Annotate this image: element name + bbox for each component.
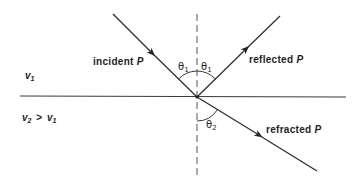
interface-line (20, 96, 346, 97)
incident-label-word: incident (93, 56, 134, 67)
reflected-label: reflectedP (249, 54, 303, 65)
refracted-label-symbol: P (315, 124, 322, 135)
reflected-label-symbol: P (296, 54, 303, 65)
reflection-angle-label: θ1 (201, 61, 212, 74)
incident-label: incidentP (93, 56, 144, 67)
lower-medium-velocity-relation: v2 > v1 (22, 112, 56, 124)
refracted-label-word: refracted (266, 124, 312, 135)
refracted-label: refractedP (266, 124, 321, 135)
upper-medium-velocity: v1 (25, 70, 34, 82)
refraction-angle-label: θ2 (206, 119, 217, 132)
reflected-label-word: reflected (249, 54, 293, 65)
diagram-canvas (0, 0, 361, 189)
point-of-incidence (195, 95, 198, 98)
snell-law-diagram: incidentP reflectedP refractedP v1 v2 > … (0, 0, 361, 189)
incidence-angle-label: θ1 (178, 61, 189, 74)
incident-label-symbol: P (137, 56, 144, 67)
